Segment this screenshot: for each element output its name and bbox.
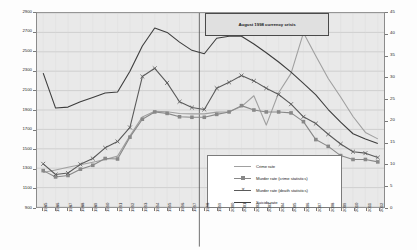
x-tick-mark — [192, 208, 193, 211]
x-tick-mark — [229, 208, 230, 211]
legend: Crime rate Murder rate (crime statistics… — [207, 155, 342, 208]
x-tick-mark — [329, 208, 330, 211]
y-tick-label-left: 900 — [2, 206, 32, 210]
legend-swatch-crime-rate — [234, 162, 251, 170]
x-tick-mark — [204, 208, 205, 211]
legend-label-murder-death: Murder rate (death statistics) — [256, 188, 308, 193]
x-tick-label: 1990 — [106, 203, 110, 212]
y-tick-label-right: 30 — [390, 75, 412, 79]
x-tick-label: 1995 — [168, 203, 172, 212]
y-tick-label-right: 10 — [390, 162, 412, 166]
x-tick-mark — [55, 208, 56, 211]
x-tick-label: 2007 — [318, 203, 322, 212]
x-tick-label: 1988 — [81, 203, 85, 212]
x-tick-mark — [67, 208, 68, 211]
legend-label-murder-crime: Murder rate (crime statistics) — [256, 176, 308, 181]
x-marker-icon: ✕ — [241, 187, 245, 191]
x-tick-label: 2009 — [343, 203, 347, 212]
y-tick-label-left: 1900 — [2, 108, 32, 112]
y-tick-mark-right — [385, 34, 388, 35]
y-tick-mark-left — [33, 71, 36, 72]
x-tick-mark — [316, 208, 317, 211]
x-tick-label: 1991 — [119, 203, 123, 212]
x-tick-mark — [217, 208, 218, 211]
x-tick-mark — [80, 208, 81, 211]
x-tick-mark — [254, 208, 255, 211]
x-tick-label: 1987 — [69, 203, 73, 212]
y-tick-label-right: 20 — [390, 118, 412, 122]
chart-container: August 1998 currency crisis Crime rate M… — [0, 0, 417, 250]
y-tick-mark-right — [385, 99, 388, 100]
x-tick-mark — [179, 208, 180, 211]
y-tick-mark-right — [385, 208, 388, 209]
x-tick-mark — [92, 208, 93, 211]
legend-label-crime-rate: Crime rate — [256, 164, 275, 169]
y-tick-mark-right — [385, 186, 388, 187]
y-tick-mark-left — [33, 90, 36, 91]
y-tick-label-left: 1100 — [2, 186, 32, 190]
y-tick-mark-left — [33, 110, 36, 111]
y-tick-label-right: 35 — [390, 53, 412, 57]
annotation-box: August 1998 currency crisis — [205, 13, 329, 36]
x-tick-label: 2005 — [293, 203, 297, 212]
x-tick-label: 1992 — [131, 203, 135, 212]
y-tick-mark-left — [33, 208, 36, 209]
y-tick-mark-right — [385, 164, 388, 165]
legend-item-murder-death: ✕ Murder rate (death statistics) — [208, 184, 341, 196]
y-tick-mark-left — [33, 12, 36, 13]
x-tick-mark — [279, 208, 280, 211]
x-tick-mark — [341, 208, 342, 211]
y-tick-label-right: 15 — [390, 140, 412, 144]
x-tick-mark — [292, 208, 293, 211]
y-tick-mark-left — [33, 51, 36, 52]
x-tick-mark — [267, 208, 268, 211]
x-tick-label: 1993 — [144, 203, 148, 212]
y-tick-label-left: 2100 — [2, 88, 32, 92]
legend-item-murder-crime: Murder rate (crime statistics) — [208, 172, 341, 184]
y-tick-label-right: 0 — [390, 206, 412, 210]
x-tick-mark — [42, 208, 43, 211]
y-tick-label-left: 1700 — [2, 127, 32, 131]
x-tick-mark — [154, 208, 155, 211]
x-tick-label: 2003 — [268, 203, 272, 212]
y-tick-mark-right — [385, 77, 388, 78]
x-tick-label: 2002 — [256, 203, 260, 212]
y-tick-mark-right — [385, 143, 388, 144]
x-tick-mark — [167, 208, 168, 211]
x-tick-label: 1989 — [94, 203, 98, 212]
x-tick-mark — [366, 208, 367, 211]
x-tick-label: 2011 — [368, 203, 372, 212]
x-tick-label: 1986 — [56, 203, 60, 212]
x-tick-label: 1994 — [156, 203, 160, 212]
annotation-label: August 1998 currency crisis — [238, 22, 295, 27]
x-tick-mark — [129, 208, 130, 211]
y-tick-mark-left — [33, 130, 36, 131]
y-tick-label-right: 40 — [390, 31, 412, 35]
x-tick-mark — [242, 208, 243, 211]
x-tick-label: 2000 — [231, 203, 235, 212]
x-tick-label: 2010 — [355, 203, 359, 212]
y-tick-label-left: 2500 — [2, 49, 32, 53]
x-tick-label: 2006 — [306, 203, 310, 212]
y-tick-label-right: 25 — [390, 97, 412, 101]
y-tick-mark-left — [33, 188, 36, 189]
x-tick-label: 1999 — [218, 203, 222, 212]
y-tick-label-right: 45 — [390, 10, 412, 14]
x-tick-label: 2008 — [331, 203, 335, 212]
y-tick-label-left: 2700 — [2, 29, 32, 33]
y-tick-label-left: 2300 — [2, 68, 32, 72]
y-tick-mark-left — [33, 149, 36, 150]
y-tick-label-right: 5 — [390, 184, 412, 188]
legend-item-crime-rate: Crime rate — [208, 160, 341, 172]
x-tick-mark — [105, 208, 106, 211]
x-tick-label: 1997 — [193, 203, 197, 212]
x-tick-mark — [354, 208, 355, 211]
x-tick-label: 2004 — [281, 203, 285, 212]
legend-swatch-murder-death: ✕ — [234, 186, 251, 194]
y-tick-mark-left — [33, 169, 36, 170]
x-tick-label: 1985 — [44, 203, 48, 212]
x-tick-label: 2012 — [380, 203, 384, 212]
y-tick-mark-right — [385, 121, 388, 122]
x-tick-mark — [379, 208, 380, 211]
x-tick-label: 2001 — [243, 203, 247, 212]
